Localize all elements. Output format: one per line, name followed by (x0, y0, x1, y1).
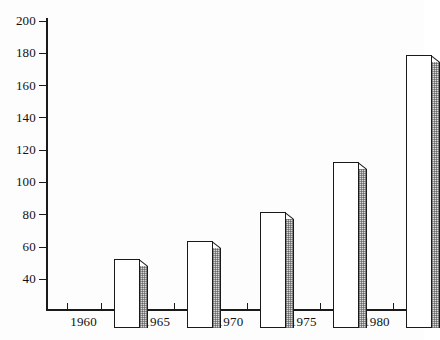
bar-side-panel (140, 266, 148, 328)
y-axis-tick (39, 279, 47, 280)
y-axis-tick-label: 120 (2, 143, 36, 156)
y-axis-tick (39, 247, 47, 248)
y-axis-tick (39, 53, 47, 54)
bar-front-face (333, 162, 359, 328)
y-axis-tick (39, 85, 47, 86)
bar[interactable] (333, 162, 367, 328)
y-axis-tick (39, 117, 47, 118)
bar-top-bevel (285, 212, 294, 219)
bar-side-panel (432, 62, 440, 328)
bar[interactable] (260, 212, 294, 328)
bar-front-face (114, 259, 140, 328)
bar-top-bevel (139, 259, 148, 266)
bar[interactable] (114, 259, 148, 328)
bar-side-panel (359, 169, 367, 328)
bar-front-face (260, 212, 286, 328)
bar-side-panel (286, 219, 294, 328)
x-axis-tick-label: 1960 (54, 314, 114, 329)
bar-top-bevel (358, 162, 367, 169)
bar-top-bevel (431, 55, 440, 62)
y-axis-tick-label: 100 (2, 175, 36, 188)
y-axis-tick (39, 150, 47, 151)
bar[interactable] (406, 55, 440, 328)
y-axis-tick-label: 140 (2, 111, 36, 124)
y-axis-tick-label: 160 (2, 79, 36, 92)
y-axis-tick-label: 180 (2, 46, 36, 59)
bar[interactable] (187, 241, 221, 328)
y-axis-tick-label: 60 (2, 240, 36, 253)
y-axis-tick-label: 40 (2, 272, 36, 285)
y-axis-tick-label: 200 (2, 14, 36, 27)
y-axis-tick (39, 182, 47, 183)
bar-side-panel (213, 248, 221, 328)
y-axis-tick (39, 214, 47, 215)
y-axis-tick-label: 80 (2, 208, 36, 221)
bar-front-face (406, 55, 432, 328)
bar-top-bevel (212, 241, 221, 248)
bar-front-face (187, 241, 213, 328)
y-axis-tick (39, 21, 47, 22)
plot-area (47, 18, 413, 310)
